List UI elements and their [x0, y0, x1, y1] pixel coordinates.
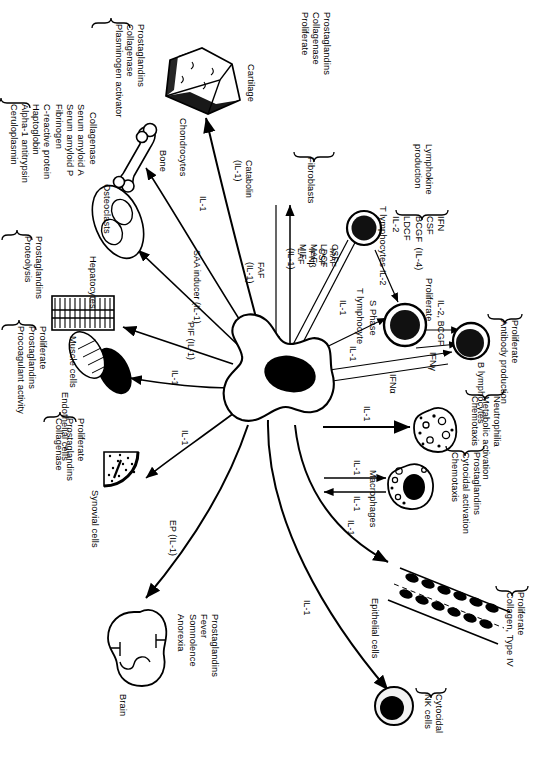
cartilage-icon [166, 48, 240, 114]
endothelial-label: Endothelial cells [59, 392, 70, 461]
mediator-il1-synovial: IL-1 [179, 430, 190, 446]
t-lymphocyte-2-label: T lymphocyte [354, 288, 365, 344]
brain-icon [108, 610, 166, 686]
t-lymphocyte-2-sub: S Phase [367, 300, 378, 336]
mediator-to-tcell-1: CSF LDCF MAF MIF [298, 244, 340, 267]
mediator-t-to-t: IL-2 [377, 270, 388, 286]
brain-label: Brain [117, 694, 128, 716]
mediator-il1-osteoclast: IL-1 [197, 196, 208, 212]
nk-label: NK cells [422, 694, 433, 729]
fibroblasts-label: Fibroblasts [305, 157, 316, 204]
osteoclasts-effects: Collagenase [87, 112, 98, 165]
mediator-il1-epithelial: IL-1 [345, 520, 356, 536]
chondrocytes-effects: Prostaglandins Collagenase Plasminogen a… [112, 24, 146, 118]
t-lymphocyte-2-effects: Proliferate [423, 278, 434, 321]
bone-icon [114, 124, 157, 193]
mediator-t-to-b: IL-2, BCGF [435, 300, 446, 345]
macrophage-center-icon [224, 314, 334, 420]
b-lymphocyte-effects: Proliferate Antibody production [498, 320, 520, 404]
t-lymphocyte-2-icon [384, 304, 426, 346]
synovial-cells-icon [104, 452, 138, 486]
fibroblasts-effects: Prostaglandins Collagenase Proliferate [298, 12, 332, 75]
hepatocytes-icon [82, 178, 153, 266]
osteoclasts-label: Osteoclasts [101, 184, 112, 234]
endothelial-effects: Proliferate Prostaglandins Procoagulant … [14, 326, 48, 414]
brain-effects: Prostaglandins Fever Somnolence Anorexia [175, 614, 220, 677]
mediator-b-to-center: IFNα [387, 374, 398, 394]
t-lymphocyte-1-label: T lymphocytes [377, 206, 388, 267]
mediator-pif-muscle: PIF (IL-1) [185, 322, 196, 360]
mediator-il1-to-t2: IL-1 [337, 300, 348, 316]
bone-label: Bone [157, 150, 168, 172]
chondrocytes-label: Chondrocytes [177, 118, 188, 177]
mediator-il1-mac-in: IL-1 [351, 496, 362, 512]
nk-cell-icon [375, 687, 413, 725]
lymphokine-production-effects: IFN CSF BCGF (IL-4) LDCF IL-2 [390, 216, 446, 270]
mediator-ep-brain: EP (IL-1) [167, 520, 178, 556]
cartilage-label: Cartilage [245, 64, 256, 102]
mediator-il1-mac-out: IL-1 [351, 460, 362, 476]
mediator-t-to-b-2: IFNγ [427, 352, 438, 371]
synovial-label: Synovial cells [89, 490, 100, 548]
b-lymphocyte-icon [453, 323, 489, 359]
muscle-effects: Prostaglandins Proteolysis [22, 236, 44, 299]
macrophages-effects: Prostaglandins Cytocidal activation Chem… [448, 452, 482, 534]
muscle-cells-icon [52, 296, 114, 330]
lymphokine-production-title: Lymphokine production [412, 144, 434, 195]
epithelial-effects: Proliferate Collagen, Type IV [504, 592, 526, 667]
figure-rotation-wrapper: Prostaglandins Collagenase Proliferate F… [0, 0, 538, 770]
mediator-catabolin-chondro: Catabolin (IL-1) [233, 160, 254, 198]
epithelial-cells-icon [388, 568, 510, 644]
epithelial-label: Epithelial cells [369, 598, 380, 659]
neutrophil-icon [414, 408, 456, 452]
muscle-label: Muscle cells [67, 336, 78, 388]
nk-effects: Cytocidal [433, 694, 444, 733]
macrophages-target-icon [388, 464, 433, 509]
mediator-saa-hepatocytes: SAA inducer (IL-1) [191, 250, 202, 324]
mediator-il1-to-b: IL-1 [347, 346, 358, 362]
hepatocytes-effects: Serum amyloid A Serum amyloid P Fibrinog… [8, 104, 86, 183]
mediator-il1-endothelial: IL-1 [169, 370, 180, 386]
mediator-il1-neutrophil: IL-1 [361, 406, 372, 422]
macrophages-label: Macrophages [367, 470, 378, 527]
hepatocytes-label: Hepatocytes [87, 256, 98, 309]
cytokine-network-diagram: Prostaglandins Collagenase Proliferate F… [0, 0, 538, 770]
mediator-from-fibroblast: FAF (IL-1) [245, 262, 266, 284]
mediator-il1-nk: IL-1 [301, 600, 312, 616]
